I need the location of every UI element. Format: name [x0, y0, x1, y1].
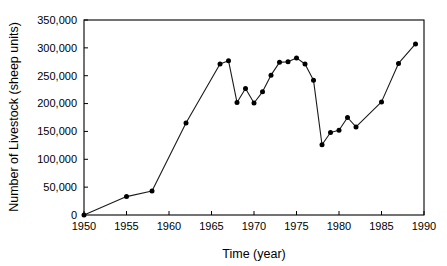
data-point [277, 60, 282, 65]
data-point [345, 115, 350, 120]
x-axis-title: Time (year) [222, 247, 285, 261]
data-point [413, 41, 418, 46]
y-axis-title: Number of Livestock (sheep units) [7, 22, 21, 212]
data-point [184, 121, 189, 126]
data-point [311, 78, 316, 83]
x-tick-label: 1970 [242, 220, 266, 232]
x-tick-label: 1975 [284, 220, 308, 232]
y-tick-label: 200,000 [37, 97, 77, 109]
data-point [218, 62, 223, 67]
data-point [235, 100, 240, 105]
y-tick-label: 250,000 [37, 70, 77, 82]
data-point [243, 86, 248, 91]
y-tick-label: 300,000 [37, 42, 77, 54]
x-tick-label: 1950 [72, 220, 96, 232]
y-tick-label: 350,000 [37, 14, 77, 26]
data-point [252, 101, 257, 106]
data-point [303, 62, 308, 67]
data-point [379, 99, 384, 104]
chart-figure: 050,000100,000150,000200,000250,000300,0… [0, 0, 447, 266]
x-tick-label: 1985 [369, 220, 393, 232]
data-point [226, 58, 231, 63]
y-tick-label: 50,000 [43, 181, 77, 193]
data-point [328, 130, 333, 135]
x-tick-label: 1980 [327, 220, 351, 232]
data-point [286, 59, 291, 64]
data-point [354, 124, 359, 129]
data-point [396, 61, 401, 66]
data-point [124, 194, 129, 199]
data-point [269, 73, 274, 78]
x-tick-label: 1955 [114, 220, 138, 232]
data-point [260, 89, 265, 94]
data-point [82, 213, 87, 218]
x-tick-label: 1965 [199, 220, 223, 232]
x-tick-label: 1960 [157, 220, 181, 232]
x-tick-label: 1990 [412, 220, 436, 232]
data-point [294, 55, 299, 60]
data-point [150, 189, 155, 194]
livestock-line-chart: 050,000100,000150,000200,000250,000300,0… [0, 0, 447, 266]
data-point [337, 128, 342, 133]
y-tick-label: 100,000 [37, 153, 77, 165]
y-tick-label: 0 [71, 209, 77, 221]
y-tick-label: 150,000 [37, 125, 77, 137]
x-axis-tick-labels: 195019551960196519701975198019851990 [72, 220, 436, 232]
data-point [320, 142, 325, 147]
